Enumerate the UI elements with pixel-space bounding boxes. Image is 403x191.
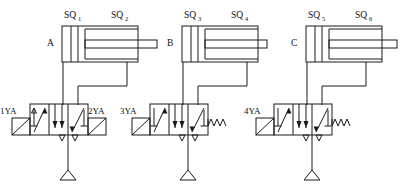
pressure-source-triangle-c [304,170,320,180]
valve-b-tank-arrow-left [179,135,185,141]
limit-switch-label-sq3: SQ [184,10,196,20]
solenoid-diagonal-4ya [256,118,274,135]
limit-switch-label-sq5: SQ [308,10,320,20]
valve-group-c: 4YA [244,104,350,180]
valve-a-tank-arrow-left [59,135,65,141]
solenoid-label-2ya: 2YA [88,106,105,116]
cylinder-rod-c [329,40,397,48]
solenoid-diagonal-1ya [12,118,30,135]
valve-body-b [150,104,208,135]
limit-switch-sub-sq3: 3 [198,15,201,22]
cylinder-rod-a [85,40,157,48]
valve-c-tank-arrow-right [316,135,322,141]
cylinder-label-c: C [291,38,297,48]
limit-switch-sub-sq5: 5 [322,15,325,22]
valve-body-c [274,104,332,135]
valve-b-right-flow-diagonal [192,108,204,132]
limit-switch-sub-sq6: 6 [369,15,373,22]
valve-body-a [30,104,88,135]
valve-a-right-flow-diagonal [72,108,84,132]
solenoid-label-3ya: 3YA [120,106,137,116]
cylinder-body-c [306,26,382,62]
valve-group-a: 1YA 2YA [0,104,106,180]
schematic-diagram: SQ 1 SQ 2 A 1YA 2YA [0,0,403,191]
solenoid-label-4ya: 4YA [244,106,261,116]
cylinder-group-c: SQ 5 SQ 6 C [291,10,397,105]
cylinder-group-b: SQ 3 SQ 4 B [167,10,267,105]
limit-switch-sub-sq2: 2 [125,15,128,22]
limit-switch-sub-sq1: 1 [78,15,81,22]
valve-c-center-arrow-1 [297,121,302,128]
valve-a-center-arrow-1 [53,121,58,128]
limit-switch-label-sq4: SQ [231,10,243,20]
cylinder-group-a: SQ 1 SQ 2 A [47,10,157,105]
valve-c-tank-arrow-left [303,135,309,141]
limit-switch-sub-sq4: 4 [245,15,249,22]
valve-group-b: 3YA [120,104,226,180]
cylinder-body-a [62,26,138,62]
valve-c-center-arrow-2 [304,121,309,128]
spring-return-b [208,119,226,126]
valve-c-right-flow-diagonal [316,108,328,132]
valve-b-tank-arrow-right [192,135,198,141]
solenoid-diagonal-3ya [132,118,150,135]
valve-a-tank-arrow-right [72,135,78,141]
limit-switch-label-sq2: SQ [111,10,123,20]
pressure-source-triangle-b [180,170,196,180]
valve-b-center-arrow-2 [180,121,185,128]
solenoid-label-1ya: 1YA [0,106,17,116]
valve-c-left-flow-diagonal [278,108,289,132]
cylinder-body-b [182,26,258,62]
pressure-source-triangle-a [60,170,76,180]
cylinder-label-b: B [167,38,173,48]
valve-b-left-flow-diagonal [154,108,165,132]
spring-return-c [332,119,350,126]
solenoid-diagonal-2ya [88,118,106,135]
valve-b-center-arrow-1 [173,121,178,128]
cylinder-label-a: A [47,38,54,48]
schematic-canvas: SQ 1 SQ 2 A 1YA 2YA [0,0,403,191]
valve-a-center-arrow-2 [60,121,65,128]
limit-switch-label-sq6: SQ [355,10,367,20]
limit-switch-label-sq1: SQ [64,10,76,20]
